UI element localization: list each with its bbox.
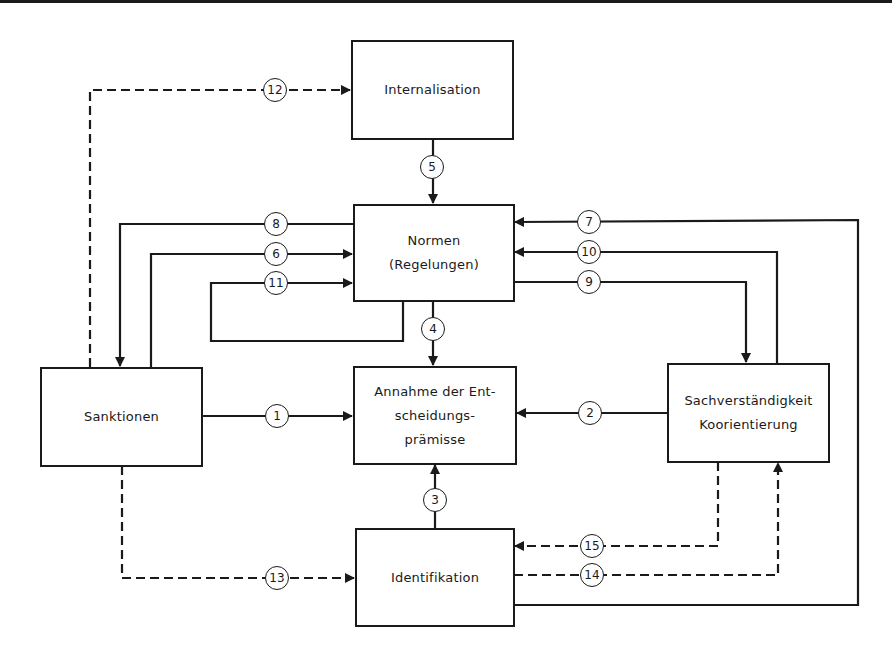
node-label: Internalisation — [384, 78, 480, 102]
node-annahme: Annahme der Ent- scheidungs- prämisse — [353, 366, 517, 465]
node-normen: Normen (Regelungen) — [353, 204, 515, 302]
edge-8 — [120, 224, 353, 366]
edge-badge-2: 2 — [578, 401, 602, 425]
edge-badge-5: 5 — [420, 155, 444, 179]
edge-9 — [514, 282, 746, 362]
edge-15 — [515, 462, 718, 546]
edge-badge-1: 1 — [265, 404, 289, 428]
node-sanktionen: Sanktionen — [40, 367, 203, 467]
edge-badge-8: 8 — [264, 212, 288, 236]
edge-badge-12: 12 — [263, 78, 287, 102]
edge-6 — [151, 254, 352, 367]
edge-badge-6: 6 — [264, 242, 288, 266]
edge-badge-11: 11 — [264, 271, 288, 295]
edge-14 — [514, 463, 778, 575]
edge-badge-7: 7 — [577, 210, 601, 234]
edge-10 — [515, 252, 777, 363]
node-identifikation: Identifikation — [355, 528, 515, 627]
node-label: Normen (Regelungen) — [389, 229, 479, 277]
edge-badge-14: 14 — [580, 563, 604, 587]
edge-badge-3: 3 — [423, 488, 447, 512]
edge-badge-9: 9 — [577, 270, 601, 294]
node-label: Sachverständigkeit Koorientierung — [684, 389, 812, 437]
node-label: Identifikation — [391, 566, 479, 590]
node-label: Annahme der Ent- scheidungs- prämisse — [374, 380, 496, 452]
edge-badge-13: 13 — [265, 566, 289, 590]
edge-badge-10: 10 — [577, 240, 601, 264]
node-internalisation: Internalisation — [351, 40, 514, 140]
node-label: Sanktionen — [84, 405, 159, 429]
edge-badge-15: 15 — [580, 534, 604, 558]
edge-badge-4: 4 — [421, 317, 445, 341]
node-sachverstaendigkeit: Sachverständigkeit Koorientierung — [667, 363, 830, 463]
edge-12 — [90, 90, 350, 367]
edge-13 — [122, 466, 354, 578]
